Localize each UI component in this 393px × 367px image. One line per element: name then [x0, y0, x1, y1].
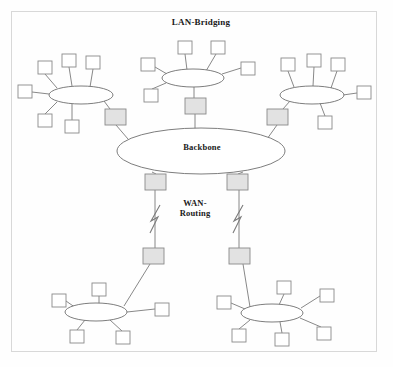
link-line: [343, 93, 357, 95]
link-line: [110, 320, 122, 331]
router-node: [227, 174, 248, 190]
host-node: [38, 61, 52, 74]
router-node: [145, 174, 166, 190]
host-node: [277, 281, 291, 294]
wan-routing-label: WAN- Routing: [166, 199, 224, 218]
diagram-canvas: [0, 0, 393, 367]
bridge-node: [267, 109, 288, 125]
lan-bridging-label: LAN-Bridging: [146, 17, 256, 27]
link-line: [280, 322, 282, 333]
host-node: [92, 283, 106, 296]
host-node: [18, 85, 32, 98]
lan-ellipse-top-middle: [162, 69, 224, 87]
host-node: [116, 331, 130, 344]
link-line: [127, 309, 155, 312]
backbone-label: Backbone: [156, 143, 248, 153]
host-node: [241, 62, 255, 75]
bridge-node: [185, 98, 206, 114]
host-node: [357, 86, 371, 99]
link-line: [231, 303, 245, 309]
link-line: [104, 101, 110, 109]
lan-ellipse-top-right: [280, 86, 344, 104]
link-line: [300, 318, 321, 327]
wan-link-right: [233, 190, 243, 248]
links-top-middle: [152, 54, 241, 131]
link-line: [313, 67, 314, 86]
link-line: [185, 54, 187, 70]
host-node: [320, 289, 334, 302]
host-node: [281, 58, 295, 71]
link-line: [124, 264, 150, 306]
network-diagram-page: LAN-Bridging Backbone WAN- Routing: [0, 0, 393, 367]
host-node: [232, 329, 246, 342]
host-node: [141, 58, 155, 71]
wan-link-left: [150, 190, 160, 248]
link-line: [45, 102, 57, 114]
host-node: [178, 41, 192, 54]
host-node: [155, 303, 169, 316]
host-node: [38, 114, 52, 127]
link-line: [116, 125, 128, 139]
host-node: [86, 56, 100, 69]
link-line: [301, 296, 320, 308]
lan-ellipse-bottom-left: [65, 303, 127, 321]
host-node: [275, 333, 289, 346]
lightning-bolt-icon: [233, 205, 243, 233]
link-line: [331, 71, 337, 88]
host-node: [211, 41, 225, 54]
link-line: [90, 69, 93, 87]
link-line: [45, 74, 57, 88]
host-node: [62, 54, 76, 67]
host-node: [307, 54, 321, 67]
link-line: [152, 83, 166, 89]
router-node: [229, 248, 250, 264]
bridges: [105, 98, 288, 125]
host-node: [317, 327, 331, 340]
routers: [143, 174, 250, 264]
lan-ellipse-bottom-right: [241, 304, 303, 322]
link-line: [279, 294, 284, 305]
host-node: [65, 120, 79, 133]
host-node: [331, 58, 345, 71]
host-node: [70, 330, 84, 343]
link-line: [222, 68, 241, 74]
link-line: [155, 67, 167, 74]
host-node: [144, 89, 158, 102]
link-line: [206, 54, 216, 71]
link-line: [32, 92, 49, 94]
link-line: [69, 67, 72, 86]
link-line: [320, 103, 325, 116]
lan-ellipse-top-left: [49, 86, 113, 104]
host-node: [52, 294, 66, 307]
host-node: [217, 296, 231, 309]
link-line: [283, 101, 290, 109]
link-line: [243, 264, 250, 307]
bridge-node: [105, 109, 126, 125]
link-line: [77, 320, 85, 330]
link-line: [288, 71, 294, 87]
link-line: [239, 320, 250, 329]
router-node: [143, 248, 164, 264]
host-node: [318, 116, 332, 129]
